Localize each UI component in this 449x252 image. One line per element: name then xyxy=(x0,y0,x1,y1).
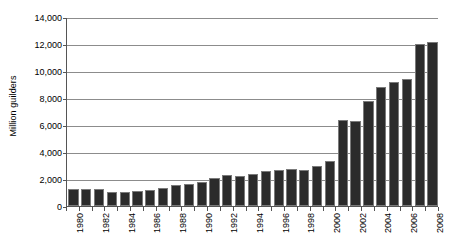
bar xyxy=(389,82,399,206)
x-axis-tick-mark xyxy=(92,207,93,211)
x-axis-tick-mark xyxy=(271,207,272,211)
x-axis-tick-mark xyxy=(181,207,182,211)
bar xyxy=(415,44,425,206)
x-axis-tick-label: 1988 xyxy=(179,213,188,233)
bar xyxy=(81,189,91,206)
x-axis-tick-mark xyxy=(79,207,80,211)
x-axis-tick-label: 1980 xyxy=(76,213,85,233)
x-axis-tick-mark xyxy=(438,207,439,211)
bar xyxy=(299,170,309,206)
y-axis-tick-label: 14,000 xyxy=(22,14,62,23)
x-axis-tick-mark xyxy=(310,207,311,211)
bar xyxy=(132,191,142,206)
x-axis-tick-mark xyxy=(169,207,170,211)
x-axis-tick-label: 1990 xyxy=(205,213,214,233)
x-axis-tick-mark xyxy=(425,207,426,211)
x-axis-tick-mark xyxy=(284,207,285,211)
plot-area xyxy=(66,18,438,207)
x-axis-tick-mark xyxy=(194,207,195,211)
y-axis-tick-label: 12,000 xyxy=(22,41,62,50)
bar xyxy=(68,189,78,206)
bar xyxy=(325,161,335,206)
x-axis-tick-label: 1998 xyxy=(307,213,316,233)
x-axis-tick-mark xyxy=(143,207,144,211)
x-axis-tick-label: 1996 xyxy=(282,213,291,233)
bar xyxy=(363,101,373,206)
x-axis-tick-mark xyxy=(233,207,234,211)
bar-chart-figure: Million guilders 02,0004,0006,0008,00010… xyxy=(0,0,449,252)
x-axis-tick-label: 1992 xyxy=(230,213,239,233)
x-axis-tick-mark xyxy=(412,207,413,211)
x-axis-tick-mark xyxy=(156,207,157,211)
y-axis-tick-labels: 02,0004,0006,0008,00010,00012,00014,000 xyxy=(22,18,62,207)
x-axis-tick-mark xyxy=(387,207,388,211)
y-axis-tick-label: 6,000 xyxy=(22,122,62,131)
bar xyxy=(248,174,258,206)
y-axis-title-label: Million guilders xyxy=(8,75,18,136)
x-axis-tick-label: 2008 xyxy=(436,213,445,233)
bar xyxy=(197,182,207,206)
bar xyxy=(171,185,181,206)
x-axis-tick-mark xyxy=(335,207,336,211)
bar xyxy=(274,170,284,206)
x-axis-tick-label: 2006 xyxy=(410,213,419,233)
x-axis-tick-mark xyxy=(66,207,67,211)
y-axis-tick-label: 8,000 xyxy=(22,95,62,104)
bar xyxy=(158,188,168,206)
bar xyxy=(107,192,117,206)
x-axis-tick-mark xyxy=(246,207,247,211)
x-axis-tick-label: 2004 xyxy=(384,213,393,233)
x-axis-tick-mark xyxy=(400,207,401,211)
x-axis-tick-mark xyxy=(104,207,105,211)
x-axis-tick-label: 1994 xyxy=(256,213,265,233)
bar xyxy=(338,120,348,206)
x-axis-tick-mark xyxy=(207,207,208,211)
bar xyxy=(427,42,437,206)
x-axis-tick-label: 1982 xyxy=(102,213,111,233)
bar xyxy=(286,169,296,206)
x-axis-tick-mark xyxy=(220,207,221,211)
bar xyxy=(209,178,219,206)
x-axis-tick-label: 1984 xyxy=(128,213,137,233)
bar xyxy=(350,121,360,206)
x-axis-tick-mark xyxy=(130,207,131,211)
y-axis-tick-label: 10,000 xyxy=(22,68,62,77)
y-axis-tick-label: 2,000 xyxy=(22,176,62,185)
bar xyxy=(312,166,322,206)
x-axis-tick-mark xyxy=(258,207,259,211)
y-axis-tick-label: 4,000 xyxy=(22,149,62,158)
y-axis-tick-label: 0 xyxy=(22,203,62,212)
bar xyxy=(94,189,104,206)
x-axis-tick-mark xyxy=(323,207,324,211)
x-axis-ticks-and-labels: 1980198219841986198819901992199419961998… xyxy=(66,207,438,252)
x-axis-tick-mark xyxy=(297,207,298,211)
x-axis-tick-mark xyxy=(348,207,349,211)
bar xyxy=(376,87,386,206)
x-axis-tick-label: 2002 xyxy=(359,213,368,233)
bar xyxy=(222,175,232,206)
bar xyxy=(120,192,130,206)
bar xyxy=(261,171,271,206)
x-axis-tick-label: 2000 xyxy=(333,213,342,233)
x-axis-tick-mark xyxy=(361,207,362,211)
x-axis-tick-label: 1986 xyxy=(153,213,162,233)
bar xyxy=(402,79,412,206)
x-axis-tick-mark xyxy=(117,207,118,211)
bar xyxy=(145,190,155,206)
bar xyxy=(235,176,245,206)
bars-container xyxy=(67,18,438,206)
bar xyxy=(184,184,194,206)
x-axis-tick-mark xyxy=(374,207,375,211)
